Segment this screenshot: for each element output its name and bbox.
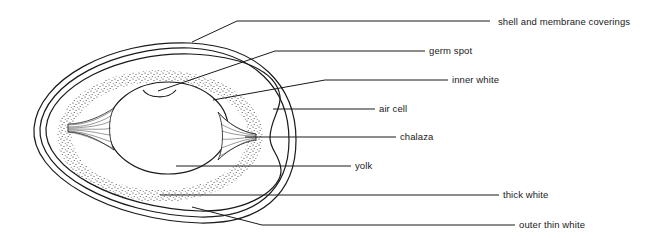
label-inner-white: inner white (452, 75, 499, 85)
leader-outer-thin-white (192, 207, 515, 225)
egg-structure-diagram: shell and membrane coverings germ spot i… (0, 0, 667, 242)
leader-inner-white (213, 80, 448, 100)
label-shell-and-membrane-coverings: shell and membrane coverings (498, 17, 630, 27)
leader-shell (192, 21, 490, 42)
label-chalaza: chalaza (400, 132, 433, 142)
label-yolk: yolk (355, 161, 372, 171)
egg-illustration (0, 0, 667, 242)
label-thick-white: thick white (503, 190, 548, 200)
label-outer-thin-white: outer thin white (519, 220, 585, 230)
label-germ-spot: germ spot (429, 46, 472, 56)
label-air-cell: air cell (379, 104, 407, 114)
